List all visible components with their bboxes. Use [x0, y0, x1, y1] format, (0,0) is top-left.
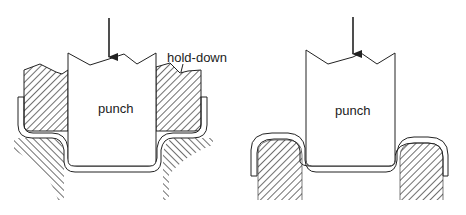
hold-down-right — [156, 63, 201, 131]
die-left — [14, 138, 64, 200]
punch-label-left: punch — [98, 101, 133, 116]
punch-label-right: punch — [335, 103, 370, 118]
hold-down-left — [24, 64, 68, 131]
die-right-fig-left — [258, 140, 302, 200]
left-figure: punch hold-down — [14, 18, 227, 200]
hold-down-label: hold-down — [167, 50, 227, 65]
right-figure: punch — [251, 17, 448, 200]
die-right — [163, 138, 213, 200]
hold-down-leader — [181, 64, 183, 72]
deep-drawing-diagram: punch hold-down punch — [0, 0, 466, 215]
die-right-fig-right — [400, 143, 443, 200]
